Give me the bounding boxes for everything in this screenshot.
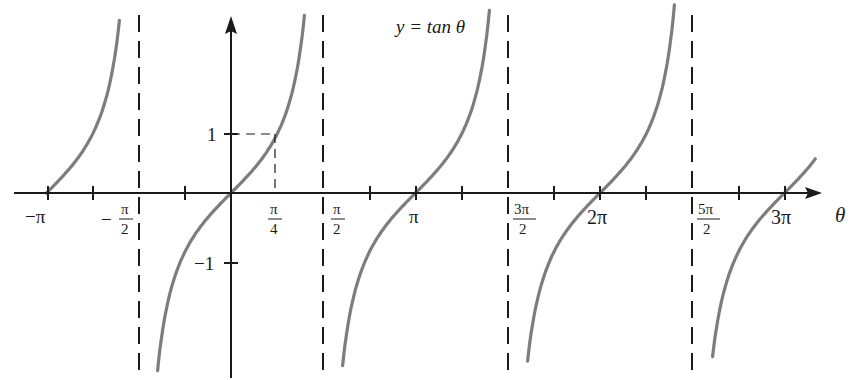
x-tick-label-neg-pi: −π bbox=[25, 206, 46, 227]
tan-branch-1 bbox=[47, 20, 120, 193]
x-tick-label-neg-half-pi-sign: − bbox=[101, 209, 112, 230]
tan-branch-5 bbox=[713, 159, 816, 357]
x-tick-label-two-pi: 2π bbox=[587, 206, 607, 228]
tan-curves bbox=[47, 5, 816, 371]
tan-branch-4 bbox=[528, 5, 675, 361]
chart-title: y = tan θ bbox=[394, 16, 465, 37]
x-tick-label-neg-half-pi-num: π bbox=[121, 201, 129, 217]
x-tick-label-half-pi-den: 2 bbox=[333, 221, 341, 237]
y-tick-label-1: 1 bbox=[207, 124, 217, 145]
x-tick-label-neg-half-pi-den: 2 bbox=[121, 221, 129, 237]
x-tick-label-quarter-pi-num: π bbox=[270, 201, 278, 217]
x-tick-label-half-pi-num: π bbox=[333, 201, 341, 217]
x-tick-label-pi: π bbox=[409, 206, 419, 227]
y-tick-label-neg-1: −1 bbox=[194, 253, 214, 274]
x-axis-label: θ bbox=[835, 203, 845, 227]
x-tick-label-three-half-pi-num: 3π bbox=[514, 201, 530, 217]
x-tick-label-quarter-pi-den: 4 bbox=[270, 221, 278, 237]
x-tick-label-three-half-pi-den: 2 bbox=[519, 221, 527, 237]
tangent-chart: y = tan θ θ 1 −1 −π − π 2 π 4 π 2 π 3π 2… bbox=[0, 0, 855, 380]
axes bbox=[14, 30, 810, 378]
x-tick-label-three-pi: 3π bbox=[771, 206, 791, 228]
x-tick-label-five-half-pi-den: 2 bbox=[703, 221, 711, 237]
x-tick-label-five-half-pi-num: 5π bbox=[698, 201, 714, 217]
